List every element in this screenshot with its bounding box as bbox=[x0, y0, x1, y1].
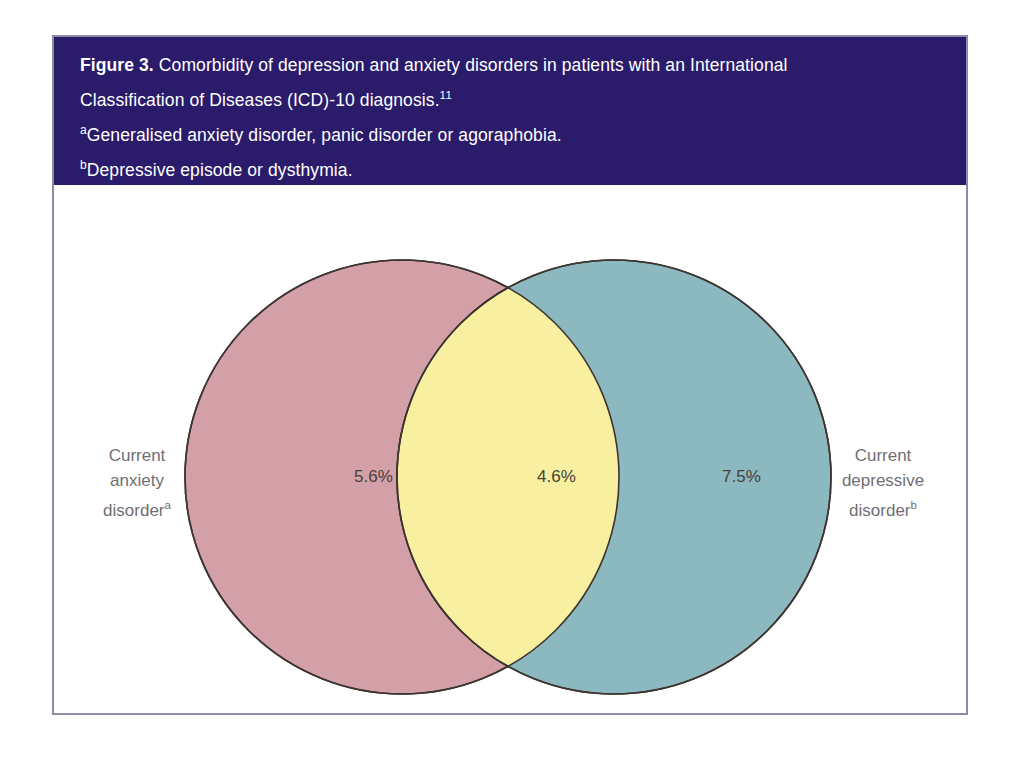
depressive-only-value: 7.5% bbox=[722, 467, 761, 487]
depressive-label-line-3: disorderb bbox=[804, 493, 962, 523]
depressive-set-label: Current depressive disorderb bbox=[804, 443, 962, 523]
depressive-label-line-3-text: disorder bbox=[849, 501, 910, 520]
figure-number: Figure 3. bbox=[80, 55, 154, 75]
figure-container: Figure 3. Comorbidity of depression and … bbox=[52, 35, 968, 715]
footnote-b-marker: b bbox=[80, 158, 87, 172]
overlap-value: 4.6% bbox=[537, 467, 576, 487]
caption-text-part-1: Comorbidity of depression and anxiety di… bbox=[159, 55, 788, 75]
figure-caption-band: Figure 3. Comorbidity of depression and … bbox=[54, 37, 966, 185]
caption-line-1: Figure 3. Comorbidity of depression and … bbox=[80, 50, 940, 80]
caption-line-2: Classification of Diseases (ICD)-10 diag… bbox=[80, 80, 940, 115]
anxiety-label-line-1: Current bbox=[62, 443, 212, 468]
caption-reference-superscript: 11 bbox=[440, 89, 453, 101]
footnote-b-text: Depressive episode or dysthymia. bbox=[87, 159, 353, 179]
anxiety-label-line-3: disordera bbox=[62, 493, 212, 523]
footnote-a-text: Generalised anxiety disorder, panic diso… bbox=[87, 125, 562, 145]
anxiety-label-line-3-text: disorder bbox=[103, 501, 164, 520]
anxiety-set-label: Current anxiety disordera bbox=[62, 443, 212, 523]
depressive-label-footnote-marker: b bbox=[911, 499, 917, 511]
caption-text-part-2: Classification of Diseases (ICD)-10 diag… bbox=[80, 90, 440, 110]
venn-diagram-area: Current anxiety disordera Current depres… bbox=[54, 185, 966, 713]
anxiety-only-value: 5.6% bbox=[354, 467, 393, 487]
depressive-label-line-2: depressive bbox=[804, 468, 962, 493]
footnote-a-marker: a bbox=[80, 123, 87, 137]
anxiety-label-line-2: anxiety bbox=[62, 468, 212, 493]
anxiety-label-footnote-marker: a bbox=[165, 499, 171, 511]
footnote-b: bDepressive episode or dysthymia. bbox=[80, 150, 940, 185]
depressive-label-line-1: Current bbox=[804, 443, 962, 468]
footnote-a: aGeneralised anxiety disorder, panic dis… bbox=[80, 115, 940, 150]
